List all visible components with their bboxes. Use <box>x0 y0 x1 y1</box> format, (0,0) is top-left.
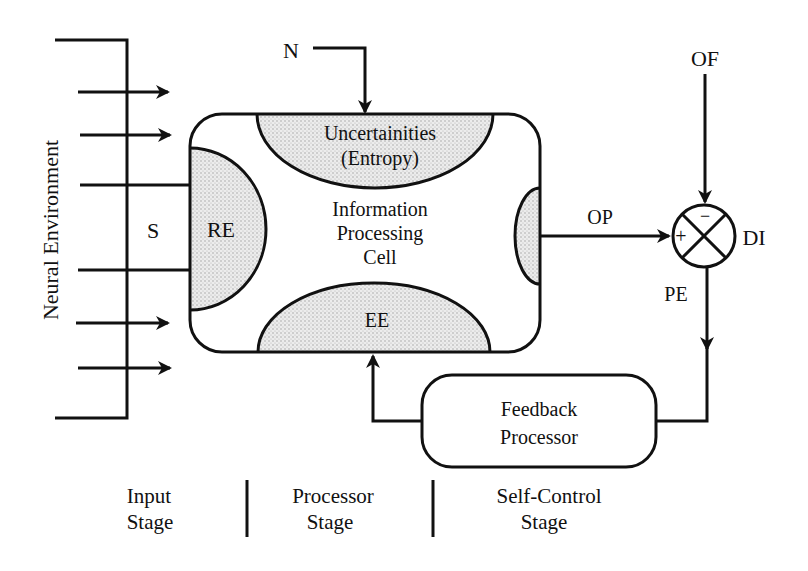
receptor-label: RE <box>207 217 235 242</box>
cell-title-line1: Information <box>332 198 428 220</box>
objective-label: OF <box>691 46 719 71</box>
feedback-arrow <box>373 356 422 421</box>
effector-label: EE <box>365 309 389 331</box>
input-bracket <box>55 40 127 418</box>
feedback-processor <box>422 375 656 467</box>
comparator-plus: + <box>675 225 686 247</box>
stage-selfcontrol-line1: Self-Control <box>497 484 602 508</box>
error-to-feedback-line <box>656 348 707 421</box>
stage-labels: Input Stage Processor Stage Self-Control… <box>127 480 602 537</box>
stage-processor-line1: Processor <box>292 484 374 508</box>
stage-input-line2: Stage <box>127 510 174 534</box>
cell-title-line3: Cell <box>363 246 397 268</box>
neural-environment-label: Neural Environment <box>38 140 63 320</box>
uncertainty-label-line1: Uncertainities <box>324 122 436 144</box>
feedback-label-line1: Feedback <box>501 398 578 420</box>
error-label: PE <box>664 283 687 305</box>
comparator-label: DI <box>742 225 765 250</box>
diagram-canvas: Neural Environment S Uncertainities (Ent… <box>0 0 808 571</box>
cell-title-line2: Processing <box>337 222 424 245</box>
noise-label: N <box>283 38 299 63</box>
output-label: OP <box>587 206 613 228</box>
uncertainty-label-line2: (Entropy) <box>341 147 419 170</box>
stage-processor-line2: Stage <box>307 510 354 534</box>
comparator-minus: − <box>700 206 710 226</box>
feedback-label-line2: Processor <box>500 426 578 448</box>
stage-selfcontrol-line2: Stage <box>521 510 568 534</box>
noise-arrow <box>313 48 365 112</box>
signal-label: S <box>147 218 159 243</box>
comparator: + − <box>673 205 735 267</box>
stage-input-line1: Input <box>127 484 171 508</box>
